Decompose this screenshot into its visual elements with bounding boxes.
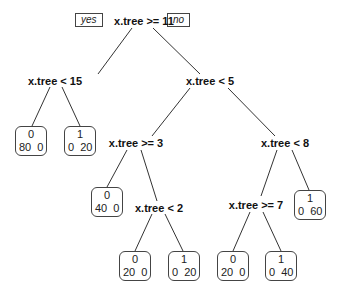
split-node-x-lt-2: x.tree < 2 <box>135 202 183 214</box>
leaf-counts: 40 0 <box>95 202 119 215</box>
leaf-class: 0 <box>123 253 147 266</box>
leaf-node: 0 80 0 <box>15 126 47 156</box>
split-node-x-lt-5: x.tree < 5 <box>186 75 234 87</box>
yes-branch-tag: yes <box>75 13 103 27</box>
leaf-class: 1 <box>172 253 196 266</box>
leaf-counts: 20 0 <box>221 266 245 279</box>
leaf-class: 0 <box>19 128 43 141</box>
split-node-x-lt-8: x.tree < 8 <box>261 137 309 149</box>
leaf-counts: 0 20 <box>172 266 196 279</box>
split-node-root: x.tree >= 11 <box>114 15 174 27</box>
leaf-node: 1 0 20 <box>168 251 200 281</box>
leaf-node: 1 0 40 <box>265 251 297 281</box>
split-node-x-ge-7: x.tree >= 7 <box>229 199 283 211</box>
leaf-class: 0 <box>221 253 245 266</box>
leaf-counts: 20 0 <box>123 266 147 279</box>
leaf-counts: 0 40 <box>269 266 293 279</box>
leaf-node: 0 20 0 <box>217 251 249 281</box>
leaf-counts: 0 20 <box>68 141 92 154</box>
leaf-class: 1 <box>269 253 293 266</box>
split-node-x-lt-15: x.tree < 15 <box>28 75 82 87</box>
leaf-node: 1 0 20 <box>64 126 96 156</box>
leaf-counts: 80 0 <box>19 141 43 154</box>
leaf-node: 0 40 0 <box>91 187 123 217</box>
leaf-counts: 0 60 <box>298 205 322 218</box>
leaf-class: 1 <box>68 128 92 141</box>
split-node-x-ge-3: x.tree >= 3 <box>109 137 163 149</box>
leaf-class: 0 <box>95 189 119 202</box>
leaf-node: 1 0 60 <box>294 190 326 220</box>
leaf-class: 1 <box>298 192 322 205</box>
leaf-node: 0 20 0 <box>119 251 151 281</box>
